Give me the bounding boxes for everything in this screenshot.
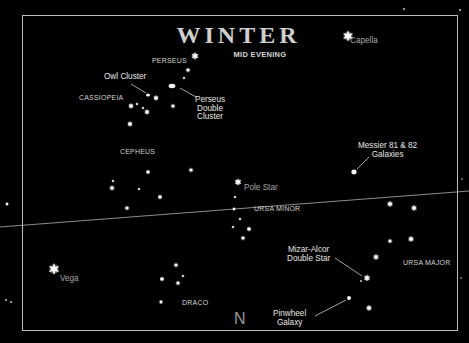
star-dot-icon [403, 8, 406, 11]
star-burst-icon [373, 254, 379, 260]
deep-sky-object-label: Messier 81 & 82Galaxies [358, 142, 417, 159]
star-dot-icon [387, 238, 392, 243]
deep-sky-object-label-line: Galaxies [358, 151, 417, 160]
star-dot-icon [135, 102, 138, 105]
star-burst-icon [387, 201, 393, 207]
star-name-label: Pole Star [244, 184, 278, 193]
star-name-label: Capella [350, 37, 378, 46]
star-burst-icon [158, 194, 163, 199]
star-burst-icon [411, 205, 417, 211]
star-burst-icon [146, 170, 150, 175]
constellation-label: URSA MINOR [254, 205, 300, 212]
star-burst-icon [364, 274, 370, 281]
star-burst-icon [49, 263, 59, 275]
chart-title: Winter [0, 22, 469, 49]
star-dot-icon [173, 262, 178, 267]
leader-line [315, 300, 346, 316]
star-dot-icon [182, 76, 185, 79]
star-dot-icon [111, 179, 114, 182]
star-dot-icon [170, 103, 175, 108]
deep-sky-object-label-line: Double Star [287, 255, 330, 264]
star-burst-icon [247, 226, 252, 231]
galaxy-icon [351, 170, 356, 175]
galaxy-icon [347, 296, 351, 300]
star-dot-icon [459, 9, 462, 12]
star-dot-icon [5, 299, 8, 302]
double-cluster-icon [169, 84, 176, 88]
star-dot-icon [109, 185, 115, 191]
deep-sky-object-label: Mizar-AlcorDouble Star [287, 246, 330, 263]
constellation-label: PERSEUS [152, 57, 187, 64]
star-dot-icon [240, 235, 245, 240]
deep-sky-object-label-line: Owl Cluster [104, 73, 146, 82]
leader-line [180, 88, 196, 97]
deep-sky-object-label-line: Cluster [195, 113, 225, 122]
star-dot-icon [10, 301, 13, 304]
star-burst-icon [191, 52, 198, 60]
star-dot-icon [231, 225, 234, 228]
deep-sky-object-label-line: Galaxy [273, 319, 306, 328]
deep-sky-object-label: PerseusDoubleCluster [195, 96, 225, 122]
star-dot-icon [141, 106, 144, 109]
leader-line [335, 258, 362, 276]
constellation-label: DRACO [182, 299, 208, 306]
star-dot-icon [460, 277, 462, 279]
star-burst-icon [128, 103, 133, 109]
chart-title-text: Winter [176, 22, 300, 48]
star-burst-icon [235, 178, 242, 186]
star-burst-icon [153, 95, 158, 101]
star-dot-icon [175, 280, 180, 285]
leader-line [131, 84, 146, 93]
star-name-label: Vega [60, 275, 79, 284]
star-dot-icon [181, 274, 184, 277]
star-burst-icon [366, 305, 372, 311]
star-dot-icon [461, 178, 463, 180]
star-dot-icon [233, 195, 236, 198]
star-chart: Winter MID EVENING PERSEUSCASSIOPEIACEPH… [0, 0, 469, 343]
star-dot-icon [238, 217, 241, 220]
constellation-label: CASSIOPEIA [79, 94, 123, 101]
star-burst-icon [160, 276, 165, 281]
deep-sky-object-label: PinwheelGalaxy [273, 310, 306, 327]
compass-north-label: N [234, 311, 246, 328]
star-dot-icon [188, 167, 193, 172]
star-burst-icon [127, 121, 132, 127]
cluster-icon [146, 93, 150, 96]
star-dot-icon [5, 202, 9, 206]
chart-subtitle: MID EVENING [210, 50, 310, 59]
star-dot-icon [360, 280, 363, 283]
star-dot-icon [124, 205, 129, 210]
constellation-label: URSA MAJOR [403, 259, 451, 266]
star-burst-icon [144, 109, 149, 115]
deep-sky-object-label: Owl Cluster [104, 73, 146, 82]
star-burst-icon [408, 236, 414, 242]
star-dot-icon [185, 67, 190, 72]
star-dot-icon [137, 187, 140, 190]
constellation-label: CEPHEUS [120, 148, 155, 155]
star-dot-icon [232, 207, 236, 211]
star-dot-icon [159, 300, 163, 304]
